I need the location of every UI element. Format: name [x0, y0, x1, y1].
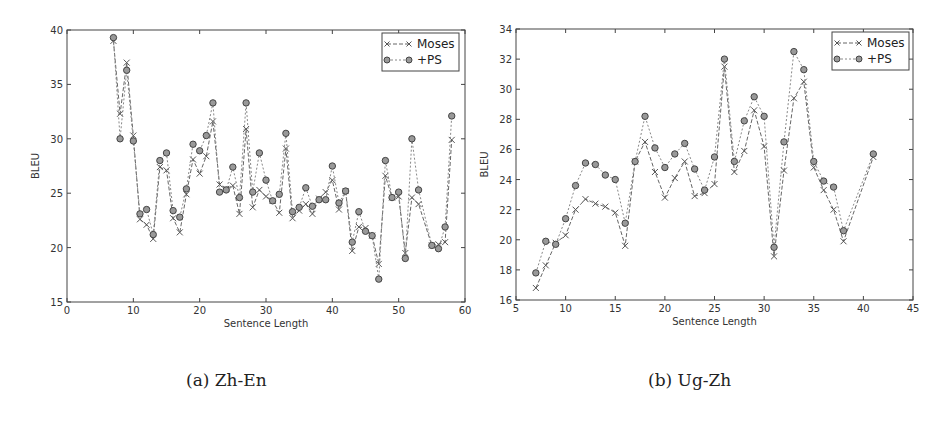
marker-circle [163, 150, 169, 156]
marker-circle [652, 145, 658, 151]
caption-ug-zh: (b) Ug-Zh [648, 370, 731, 390]
y-tick-label: 34 [499, 24, 512, 35]
marker-x [612, 210, 618, 216]
marker-circle [190, 141, 196, 147]
marker-circle [303, 185, 309, 191]
marker-circle [230, 164, 236, 170]
marker-circle [442, 224, 448, 230]
y-axis-label: BLEU [30, 153, 41, 179]
y-tick-label: 22 [499, 205, 512, 216]
y-tick-label: 30 [499, 84, 512, 95]
marker-circle [751, 94, 757, 100]
marker-circle [323, 197, 329, 203]
marker-x [409, 195, 415, 201]
x-tick-label: 50 [392, 305, 405, 316]
x-tick-label: 40 [326, 305, 339, 316]
marker-circle [243, 100, 249, 106]
marker-circle [572, 182, 578, 188]
marker-x [416, 201, 422, 207]
y-tick-label: 18 [499, 265, 512, 276]
legend-label-moses: Moses [867, 36, 905, 50]
marker-circle [409, 136, 415, 142]
y-tick-label: 35 [50, 79, 63, 90]
marker-circle [250, 189, 256, 195]
marker-x [582, 196, 588, 202]
marker-circle [612, 176, 618, 182]
x-axis-label: Sentence Length [224, 318, 309, 329]
y-tick-label: 32 [499, 54, 512, 65]
marker-circle [283, 130, 289, 136]
marker-x [263, 193, 269, 199]
marker-circle [170, 207, 176, 213]
x-tick-label: 25 [708, 303, 721, 314]
marker-circle [761, 113, 767, 119]
x-tick-label: 30 [260, 305, 273, 316]
marker-circle [662, 164, 668, 170]
x-tick-label: 15 [609, 303, 622, 314]
marker-x [821, 187, 827, 193]
marker-x [801, 79, 807, 85]
marker-circle [622, 220, 628, 226]
marker-circle [811, 158, 817, 164]
series-line-moses [536, 67, 873, 288]
marker-circle [309, 203, 315, 209]
marker-circle [137, 211, 143, 217]
x-tick-label: 20 [193, 305, 206, 316]
marker-circle [210, 100, 216, 106]
marker-circle [177, 214, 183, 220]
marker-circle [602, 172, 608, 178]
marker-circle [731, 158, 737, 164]
marker-x [731, 169, 737, 175]
marker-x [309, 211, 315, 217]
chart-zh-en: 0102030405060152025303540Sentence Length… [30, 25, 471, 329]
marker-x [157, 164, 163, 170]
marker-circle [781, 139, 787, 145]
x-tick-label: 10 [127, 305, 140, 316]
marker-circle [196, 148, 202, 154]
marker-circle [553, 241, 559, 247]
marker-circle [289, 208, 295, 214]
marker-circle [269, 198, 275, 204]
y-tick-label: 28 [499, 114, 512, 125]
marker-circle [110, 34, 116, 40]
marker-circle [316, 197, 322, 203]
marker-circle [223, 187, 229, 193]
marker-circle [342, 188, 348, 194]
x-tick-label: 40 [857, 303, 870, 314]
x-tick-label: 5 [513, 303, 519, 314]
marker-circle [741, 118, 747, 124]
marker-x [170, 215, 176, 221]
marker-x [303, 201, 309, 207]
marker-circle [216, 189, 222, 195]
x-tick-label: 35 [807, 303, 820, 314]
marker-x [563, 232, 569, 238]
y-axis-label: BLEU [479, 151, 490, 177]
marker-x [682, 158, 688, 164]
marker-x [144, 222, 150, 228]
marker-circle [592, 161, 598, 167]
legend-label-ps: +PS [867, 52, 892, 66]
marker-x [622, 243, 628, 249]
marker-circle [203, 132, 209, 138]
marker-circle [389, 194, 395, 200]
marker-x [841, 238, 847, 244]
marker-circle [349, 239, 355, 245]
y-tick-label: 20 [50, 243, 63, 254]
marker-x [662, 195, 668, 201]
marker-x [592, 201, 598, 207]
marker-circle [329, 163, 335, 169]
marker-x [741, 148, 747, 154]
marker-circle [533, 270, 539, 276]
marker-circle [263, 177, 269, 183]
marker-circle [276, 191, 282, 197]
marker-circle [256, 150, 262, 156]
marker-circle [183, 186, 189, 192]
marker-circle [429, 242, 435, 248]
marker-circle [362, 228, 368, 234]
marker-x [256, 187, 262, 193]
marker-x [533, 285, 539, 291]
marker-circle [150, 231, 156, 237]
marker-x [692, 193, 698, 199]
marker-circle [130, 138, 136, 144]
y-tick-label: 20 [499, 235, 512, 246]
